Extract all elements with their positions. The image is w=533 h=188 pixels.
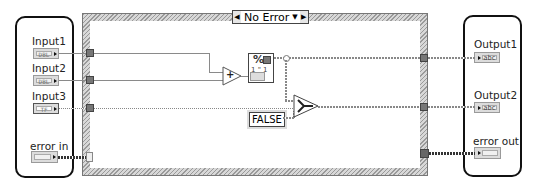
tunnel-error-in <box>86 152 93 162</box>
wire-input1 <box>59 53 88 54</box>
wire-input1-drop <box>209 53 210 72</box>
error-cluster-icon <box>482 150 498 156</box>
wire-output2 <box>428 106 475 108</box>
next-case-button[interactable]: ▶ <box>300 11 308 23</box>
output1-label: Output1 <box>474 38 517 50</box>
wire-error-in <box>58 156 88 159</box>
output-arrow-icon <box>54 52 57 56</box>
error-in-terminal[interactable] <box>31 151 58 163</box>
error-cluster-icon <box>34 154 51 160</box>
output1-indicator[interactable]: abc <box>474 52 500 63</box>
input-arrow-icon <box>478 151 481 155</box>
wire-input3-internal <box>94 108 295 109</box>
dbl-icon: DBL <box>36 78 52 83</box>
string-icon: abc <box>482 105 497 110</box>
prev-case-button[interactable]: ◀ <box>233 11 241 23</box>
tunnel-output2 <box>420 103 428 111</box>
dbl-icon: DBL <box>36 51 52 56</box>
wire-string-output1 <box>274 57 420 59</box>
case-selector-value: No Error <box>241 11 292 24</box>
input1-terminal[interactable]: DBL <box>33 48 59 59</box>
wire-input2-to-add <box>94 80 224 81</box>
wire-error-out <box>429 152 475 155</box>
wire-string-branch <box>285 60 287 101</box>
input3-label: Input3 <box>32 90 66 102</box>
dbl-input-icon <box>250 72 265 81</box>
input-arrow-icon <box>478 56 481 60</box>
input-arrow-icon <box>478 106 481 110</box>
tunnel-error-out <box>420 149 429 158</box>
wire-input3 <box>59 108 88 109</box>
output2-indicator[interactable]: abc <box>474 102 500 113</box>
wire-input2 <box>59 80 88 81</box>
tunnel-input1 <box>86 49 94 57</box>
wire-output1 <box>428 57 475 59</box>
input2-terminal[interactable]: DBL <box>33 75 59 86</box>
false-constant[interactable]: FALSE <box>249 112 285 127</box>
tunnel-input2 <box>86 76 94 84</box>
boolean-icon: TF <box>36 106 52 111</box>
output2-label: Output2 <box>474 89 517 101</box>
case-selector[interactable]: ◀ No Error ▼ ▶ <box>232 10 309 24</box>
error-out-indicator[interactable] <box>474 147 501 159</box>
error-out-label: error out <box>473 135 519 147</box>
input1-label: Input1 <box>32 35 66 47</box>
select-node[interactable] <box>293 94 319 118</box>
input2-label: Input2 <box>32 62 66 74</box>
tunnel-output1 <box>420 54 428 62</box>
string-output-icon <box>263 56 271 64</box>
string-icon: abc <box>482 55 497 60</box>
output-arrow-icon <box>53 155 56 159</box>
dropdown-arrow-icon[interactable]: ▼ <box>292 13 299 21</box>
wire-select-output2 <box>318 106 420 108</box>
tunnel-input3 <box>86 104 94 112</box>
wire-input1-internal <box>94 53 209 54</box>
output-arrow-icon <box>54 107 57 111</box>
format-into-string-node[interactable]: % 1 " 1 <box>248 53 274 83</box>
add-symbol: + <box>226 69 234 81</box>
input3-terminal[interactable]: TF <box>33 103 59 114</box>
output-arrow-icon <box>54 79 57 83</box>
case-structure[interactable] <box>83 14 427 175</box>
